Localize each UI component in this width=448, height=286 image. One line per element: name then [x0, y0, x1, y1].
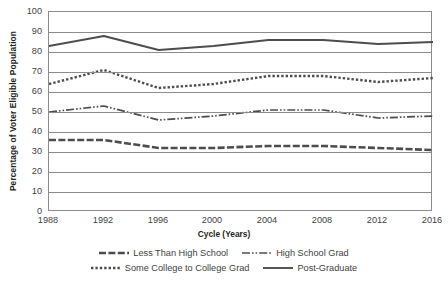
gridline	[49, 32, 431, 33]
legend-item-some-college-to-college-grad[interactable]: Some College to College Grad	[91, 263, 250, 273]
y-tick-label: 100	[8, 6, 42, 16]
legend-label: Less Than High School	[133, 248, 228, 258]
legend-row-1: Less Than High School High School Grad	[0, 245, 448, 260]
x-axis-title: Cycle (Years)	[0, 229, 448, 239]
y-tick-label: 40	[8, 126, 42, 136]
gridline	[49, 132, 431, 133]
gridline	[49, 92, 431, 93]
gridline	[49, 72, 431, 73]
y-tick-label: 20	[8, 166, 42, 176]
legend-item-post-graduate[interactable]: Post-Graduate	[263, 263, 357, 273]
y-tick-label: 50	[8, 106, 42, 116]
legend-label: Some College to College Grad	[125, 263, 250, 273]
x-tick-label: 2012	[357, 215, 397, 225]
x-tick-label: 2008	[302, 215, 342, 225]
legend-swatch-dotted	[91, 264, 121, 272]
y-tick-label: 70	[8, 66, 42, 76]
line-chart: Percentage of Voter Eligible Population …	[0, 0, 448, 286]
series-line	[49, 36, 433, 50]
x-tick-label: 2016	[412, 215, 448, 225]
legend-swatch-dash-dot	[242, 249, 272, 257]
chart-legend: Less Than High School High School Grad S	[0, 245, 448, 275]
gridline	[49, 192, 431, 193]
plot-area	[48, 11, 432, 211]
x-tick-label: 1992	[83, 215, 123, 225]
legend-swatch-dashed-thick	[99, 249, 129, 257]
y-tick-label: 60	[8, 86, 42, 96]
legend-row-2: Some College to College Grad Post-Gradua…	[0, 260, 448, 275]
gridline	[49, 152, 431, 153]
series-line	[49, 106, 433, 120]
y-tick-label: 80	[8, 46, 42, 56]
legend-label: Post-Graduate	[297, 263, 357, 273]
legend-label: High School Grad	[276, 248, 349, 258]
legend-swatch-solid	[263, 264, 293, 272]
gridline	[49, 112, 431, 113]
y-tick-label: 30	[8, 146, 42, 156]
gridline	[49, 172, 431, 173]
series-line	[49, 140, 433, 150]
legend-item-less-than-high-school[interactable]: Less Than High School	[99, 248, 228, 258]
x-tick-label: 1988	[28, 215, 68, 225]
y-tick-label: 10	[8, 186, 42, 196]
y-tick-label: 90	[8, 26, 42, 36]
x-tick-label: 2004	[247, 215, 287, 225]
x-tick-label: 2000	[192, 215, 232, 225]
x-tick-label: 1996	[138, 215, 178, 225]
gridline	[49, 52, 431, 53]
legend-item-high-school-grad[interactable]: High School Grad	[242, 248, 349, 258]
